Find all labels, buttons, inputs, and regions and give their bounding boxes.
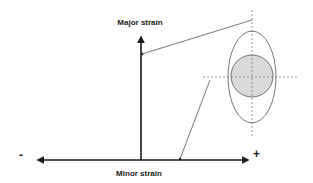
major-leader-point (141, 53, 143, 55)
minor-leader-point (179, 158, 181, 160)
strain-diagram (0, 0, 313, 183)
negative-sign: - (19, 148, 23, 162)
positive-sign: + (253, 147, 260, 161)
minor-strain-label: Minor strain (116, 169, 162, 178)
minor-leader-line (180, 80, 210, 159)
major-strain-label: Major strain (117, 18, 162, 27)
